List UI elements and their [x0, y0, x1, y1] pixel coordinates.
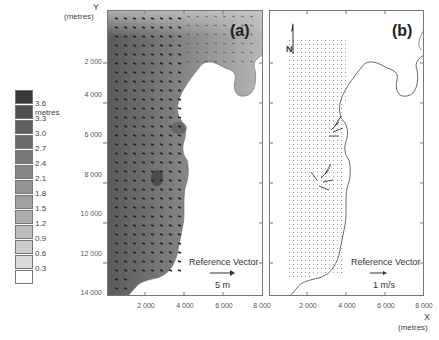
current-vector [341, 236, 342, 237]
vector-arrow [169, 243, 172, 244]
current-vector [301, 84, 302, 85]
current-vector [333, 188, 334, 189]
current-vector [293, 200, 294, 201]
current-vector [345, 88, 346, 89]
current-vector [297, 264, 298, 265]
vector-arrow [133, 72, 136, 73]
current-vector [321, 92, 322, 93]
current-vector [329, 148, 330, 149]
current-vector [337, 216, 338, 217]
current-vector [329, 88, 330, 89]
current-vector [329, 40, 330, 41]
vector-arrow [151, 252, 154, 253]
current-vector [297, 48, 298, 49]
vector-arrow [151, 135, 154, 136]
vector-arrow [169, 108, 172, 109]
current-vector [337, 52, 338, 53]
vector-arrow [151, 90, 154, 91]
current-vector [297, 152, 298, 153]
vector-arrow [151, 270, 154, 271]
current-vector [321, 184, 322, 185]
vector-arrow [160, 90, 163, 91]
legend-label: 1.8 [35, 189, 46, 198]
vector-arrow [124, 81, 127, 82]
current-vector [293, 120, 294, 121]
vector-arrow [124, 225, 127, 226]
current-vector [289, 196, 290, 197]
current-vector [333, 236, 334, 237]
current-vector [313, 232, 314, 233]
current-vector [313, 220, 314, 221]
vector-arrow [178, 108, 181, 109]
vector-arrow [151, 234, 154, 235]
current-vector [317, 180, 318, 181]
current-vector [309, 180, 310, 181]
vector-arrow [160, 162, 163, 163]
current-vector [297, 192, 298, 193]
current-vector [305, 276, 306, 277]
vector-arrow [115, 99, 118, 100]
current-vector [341, 104, 342, 105]
north-label: N [286, 44, 293, 54]
vector-arrow [178, 207, 181, 208]
panel-b-label: (b) [392, 22, 412, 40]
current-vector [329, 56, 330, 57]
current-vector [341, 44, 342, 45]
current-vector [293, 196, 294, 197]
current-vector [301, 128, 302, 129]
current-vector [297, 60, 298, 61]
current-vector [297, 136, 298, 137]
current-vector [321, 148, 322, 149]
current-vector [333, 220, 334, 221]
current-vector [321, 112, 322, 113]
vector-arrow [133, 207, 136, 208]
current-vector [289, 40, 290, 41]
current-vector [301, 268, 302, 269]
current-vector [325, 200, 326, 201]
current-vector [321, 272, 322, 273]
current-vector [329, 128, 330, 129]
vector-arrow [160, 261, 163, 262]
vector-arrow [142, 108, 145, 109]
vector-arrow [133, 252, 136, 253]
vector-arrow [142, 27, 145, 28]
vector-arrow [169, 18, 172, 19]
vector-arrow [169, 198, 172, 199]
current-vector [341, 84, 342, 85]
current-vector [309, 232, 310, 233]
current-vector [309, 268, 310, 269]
x-tick-label-a: 2 000 [131, 302, 161, 309]
vector-arrow [142, 99, 145, 100]
vector-arrow [142, 225, 145, 226]
current-vector [305, 252, 306, 253]
current-vector [293, 264, 294, 265]
current-vector [293, 188, 294, 189]
vector-arrow [133, 99, 136, 100]
current-vector [317, 220, 318, 221]
current-vector [293, 228, 294, 229]
current-vector [301, 184, 302, 185]
vector-arrow [115, 45, 118, 46]
current-vector [341, 216, 342, 217]
current-vector [293, 208, 294, 209]
current-vector [333, 200, 334, 201]
current-vector [345, 44, 346, 45]
current-vector [333, 80, 334, 81]
current-vector [293, 276, 294, 277]
legend-swatch [15, 120, 33, 134]
legend-swatch [15, 195, 33, 209]
vector-arrow [169, 180, 172, 181]
current-vector [337, 196, 338, 197]
current-vector [313, 72, 314, 73]
current-vector [337, 272, 338, 273]
current-vector [293, 160, 294, 161]
vector-arrow [124, 261, 127, 262]
current-vector [289, 204, 290, 205]
current-vector [341, 124, 342, 125]
current-vector [321, 224, 322, 225]
legend-label: 2.7 [35, 144, 46, 153]
current-vector [301, 160, 302, 161]
current-vector [305, 176, 306, 177]
vector-arrow [115, 162, 118, 163]
vector-arrow [160, 198, 163, 199]
